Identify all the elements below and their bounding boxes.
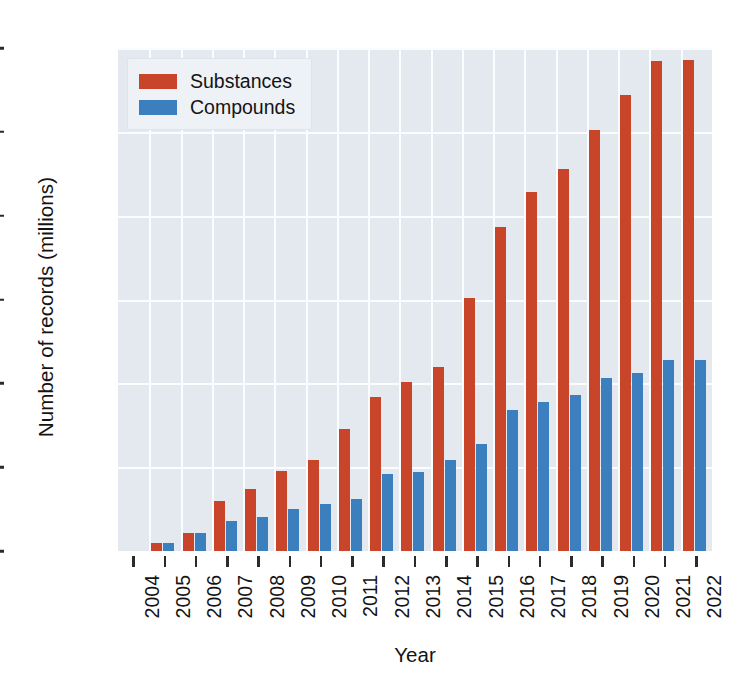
x-tick-mark-2020 (633, 556, 636, 567)
y-tick-mark-150 (0, 298, 4, 301)
bar-substances-2015 (464, 298, 475, 551)
bar-substances-2011 (339, 429, 350, 551)
bar-group (618, 48, 649, 551)
bar-substances-2021 (651, 61, 662, 551)
bar-substances-2008 (245, 489, 256, 551)
bar-group (337, 48, 368, 551)
x-tick-label-2012: 2012 (391, 575, 414, 618)
x-tick-mark-2016 (508, 556, 511, 567)
bar-substances-2013 (401, 382, 412, 551)
legend-item-substances[interactable]: Substances (139, 68, 295, 94)
legend-item-compounds[interactable]: Compounds (139, 94, 295, 120)
bar-compounds-2018 (570, 395, 581, 551)
x-tick-label-2015: 2015 (485, 575, 508, 618)
bar-compounds-2007 (226, 521, 237, 551)
x-tick-mark-2022 (695, 556, 698, 567)
y-tick-mark-250 (0, 131, 4, 134)
bar-compounds-2021 (663, 360, 674, 551)
bar-substances-2010 (308, 460, 319, 551)
legend-swatch-compounds (139, 100, 177, 115)
y-tick-mark-300 (0, 47, 4, 50)
bar-compounds-2020 (632, 373, 643, 551)
bar-group (524, 48, 555, 551)
bar-compounds-2015 (476, 444, 487, 551)
x-tick-mark-2013 (414, 556, 417, 567)
legend-swatch-substances (139, 74, 177, 89)
bar-compounds-2014 (445, 460, 456, 551)
x-tick-mark-2008 (257, 556, 260, 567)
bar-group (493, 48, 524, 551)
bar-substances-2007 (214, 501, 225, 551)
bar-group (681, 48, 712, 551)
x-tick-label-2016: 2016 (516, 575, 539, 618)
x-tick-label-2018: 2018 (578, 575, 601, 618)
bar-compounds-2009 (288, 509, 299, 551)
x-tick-mark-2009 (289, 556, 292, 567)
bar-substances-2005 (151, 543, 162, 551)
bar-compounds-2006 (195, 533, 206, 551)
bar-group (649, 48, 680, 551)
x-tick-label-2020: 2020 (641, 575, 664, 618)
bar-group (587, 48, 618, 551)
x-tick-label-2022: 2022 (703, 575, 726, 618)
bar-group (556, 48, 587, 551)
x-tick-mark-2014 (445, 556, 448, 567)
bar-chart-figure: Number of records (millions) 05010015020… (0, 0, 745, 681)
x-tick-mark-2005 (164, 556, 167, 567)
x-tick-mark-2012 (382, 556, 385, 567)
x-tick-mark-2007 (226, 556, 229, 567)
bar-compounds-2010 (320, 504, 331, 551)
x-tick-label-2006: 2006 (203, 575, 226, 618)
x-tick-mark-2006 (195, 556, 198, 567)
bar-compounds-2019 (601, 378, 612, 551)
bar-compounds-2017 (538, 402, 549, 551)
legend-label-compounds: Compounds (190, 96, 295, 119)
bar-substances-2018 (558, 169, 569, 551)
bar-substances-2006 (183, 533, 194, 551)
x-tick-label-2007: 2007 (234, 575, 257, 618)
bar-compounds-2022 (695, 360, 706, 551)
bar-compounds-2012 (382, 474, 393, 551)
y-tick-mark-200 (0, 214, 4, 217)
bar-substances-2022 (683, 60, 694, 551)
bar-group (431, 48, 462, 551)
x-tick-mark-2015 (476, 556, 479, 567)
x-tick-mark-2017 (539, 556, 542, 567)
x-tick-label-2008: 2008 (266, 575, 289, 618)
x-tick-label-2014: 2014 (453, 575, 476, 618)
bar-compounds-2011 (351, 499, 362, 551)
x-tick-mark-2011 (351, 556, 354, 567)
bar-compounds-2008 (257, 517, 268, 551)
chart-legend: SubstancesCompounds (127, 58, 312, 130)
legend-label-substances: Substances (190, 70, 292, 93)
x-axis-title: Year (118, 643, 712, 667)
x-tick-label-2013: 2013 (422, 575, 445, 618)
bar-group (462, 48, 493, 551)
bar-substances-2012 (370, 397, 381, 551)
y-tick-mark-100 (0, 382, 4, 385)
x-tick-mark-2019 (601, 556, 604, 567)
bar-group (399, 48, 430, 551)
bar-substances-2017 (526, 192, 537, 551)
x-tick-label-2004: 2004 (141, 575, 164, 618)
y-tick-mark-0 (0, 550, 4, 553)
bar-group (368, 48, 399, 551)
bar-substances-2009 (276, 471, 287, 551)
bar-substances-2020 (620, 95, 631, 551)
x-tick-label-2019: 2019 (610, 575, 633, 618)
bar-substances-2019 (589, 130, 600, 551)
x-tick-label-2005: 2005 (172, 575, 195, 618)
x-tick-label-2021: 2021 (672, 575, 695, 618)
x-tick-label-2010: 2010 (328, 575, 351, 618)
bar-substances-2016 (495, 227, 506, 551)
x-tick-mark-2010 (320, 556, 323, 567)
x-tick-mark-2004 (132, 556, 135, 567)
x-tick-mark-2018 (570, 556, 573, 567)
bar-compounds-2013 (413, 472, 424, 551)
x-tick-mark-2021 (664, 556, 667, 567)
x-tick-label-2017: 2017 (547, 575, 570, 618)
y-axis-title: Number of records (millions) (34, 47, 58, 567)
y-tick-mark-50 (0, 466, 4, 469)
bar-compounds-2016 (507, 410, 518, 551)
bar-compounds-2005 (163, 543, 174, 551)
